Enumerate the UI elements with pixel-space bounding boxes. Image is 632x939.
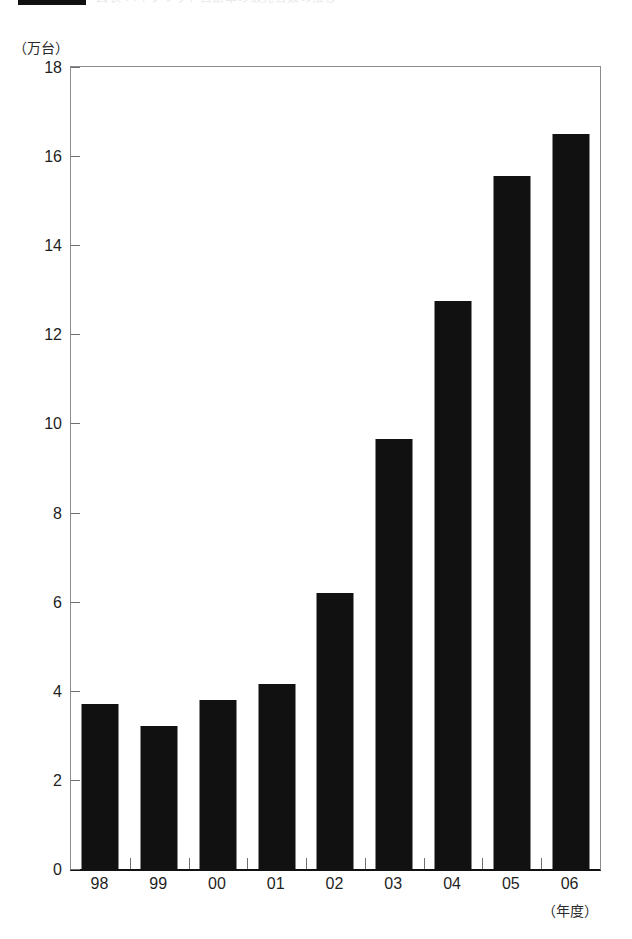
- bar: [258, 684, 295, 869]
- x-axis-labels: 989900010203040506: [70, 874, 599, 900]
- x-axis-label: 00: [208, 874, 226, 894]
- x-axis-label: 02: [326, 874, 344, 894]
- y-axis-tick-label: 8: [53, 506, 62, 522]
- y-axis-tick-label: 6: [53, 595, 62, 611]
- bar: [493, 176, 530, 869]
- x-axis-label: 99: [149, 874, 167, 894]
- bar: [435, 301, 472, 869]
- bar-series: [71, 67, 600, 869]
- bar-slot: [306, 67, 365, 869]
- x-axis-label: 98: [90, 874, 108, 894]
- bar: [82, 704, 119, 869]
- header-strip: 図表 ハイブリッド自動車の販売台数の推移: [0, 0, 632, 14]
- x-axis-label: 04: [443, 874, 461, 894]
- bar-slot: [130, 67, 189, 869]
- y-axis-tick-label: 14: [44, 238, 62, 254]
- x-axis-label: 06: [561, 874, 579, 894]
- bar: [376, 439, 413, 869]
- x-axis-tick: [365, 858, 366, 869]
- x-axis-tick: [424, 858, 425, 869]
- y-axis-tick-label: 10: [44, 416, 62, 432]
- bar-slot: [365, 67, 424, 869]
- x-axis-label: 03: [384, 874, 402, 894]
- x-axis-tick: [541, 858, 542, 869]
- x-axis-caption: （年度）: [542, 902, 598, 920]
- bar-slot: [247, 67, 306, 869]
- y-axis-tick-label: 4: [53, 684, 62, 700]
- x-axis-tick: [482, 858, 483, 869]
- bar: [552, 134, 589, 869]
- bar: [317, 593, 354, 869]
- x-axis-label: 01: [267, 874, 285, 894]
- x-axis-tick: [306, 858, 307, 869]
- y-axis-tick-label: 0: [53, 862, 62, 878]
- bar-slot: [71, 67, 130, 869]
- y-axis-tick-label: 2: [53, 773, 62, 789]
- bar-slot: [541, 67, 600, 869]
- y-axis-tick: 0: [71, 869, 80, 870]
- x-axis-tick: [247, 858, 248, 869]
- black-bar-marker-icon: [18, 0, 86, 5]
- bar-slot: [424, 67, 483, 869]
- bar-slot: [482, 67, 541, 869]
- bar-slot: [189, 67, 248, 869]
- y-axis-tick-label: 16: [44, 149, 62, 165]
- bar: [141, 726, 178, 869]
- y-axis-tick-label: 12: [44, 327, 62, 343]
- x-axis-tick: [189, 858, 190, 869]
- x-axis-tick: [130, 858, 131, 869]
- page-title: 図表 ハイブリッド自動車の販売台数の推移: [96, 0, 337, 5]
- y-axis-tick-label: 18: [44, 60, 62, 76]
- bar: [199, 700, 236, 869]
- y-axis-unit-label: （万台）: [13, 40, 69, 56]
- chart-plot-area: 024681012141618: [70, 66, 601, 871]
- x-axis-label: 05: [502, 874, 520, 894]
